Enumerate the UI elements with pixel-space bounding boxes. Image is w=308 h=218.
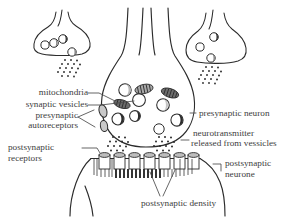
label-synaptic-vesicles: synaptic vesicles <box>0 99 88 110</box>
label-postsynaptic-neurone-line2: neurone <box>225 169 255 180</box>
label-postsynaptic-receptors-line2: receptors <box>8 153 88 164</box>
neurotransmitter-cloud-cleft-right <box>153 136 175 152</box>
label-postsynaptic-density: postsynaptic density <box>141 198 216 209</box>
label-postsynaptic-neurone-line1: postsynaptic <box>225 158 271 169</box>
label-presynaptic: presynaptic <box>0 110 78 121</box>
label-presynaptic-neuron: presynaptic neuron <box>199 108 270 119</box>
label-postsynaptic-receptors-line1: postsynaptic <box>8 142 88 153</box>
vesicles-right-terminal <box>196 33 218 62</box>
postsynaptic-receptors <box>99 153 199 169</box>
synapse-diagram-figure: mitochondria synaptic vesicles presynapt… <box>0 0 308 218</box>
label-neurotransmitter: neurotransmitter <box>193 128 254 139</box>
vesicles-left-terminal <box>41 35 76 56</box>
leader-postsynaptic-neurone <box>213 164 221 171</box>
label-autoreceptors: autoreceptors <box>0 120 78 131</box>
leader-autoreceptors-upper <box>78 110 94 117</box>
leader-postsynaptic-density-b <box>163 170 175 196</box>
neurotransmitter-cloud-left <box>57 59 81 77</box>
presynaptic-terminal-main <box>101 8 194 147</box>
neurotransmitter-cloud-right <box>198 66 222 84</box>
leader-postsynaptic-density-a <box>150 172 160 196</box>
leader-autoreceptors-lower <box>78 117 95 127</box>
label-mitochondria: mitochondria <box>4 87 88 98</box>
label-released-from-vessicles: released from vessicles <box>191 138 277 149</box>
